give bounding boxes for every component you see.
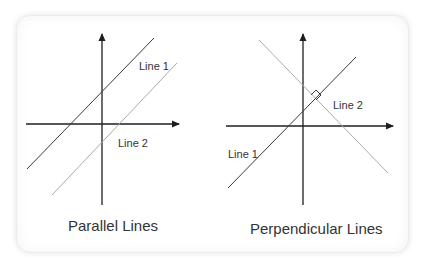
- line-2: [52, 63, 177, 195]
- line-2: [259, 40, 388, 173]
- perpendicular-lines-panel: Line 2 Line 1: [226, 34, 393, 205]
- line-1-label: Line 1: [228, 148, 258, 160]
- perpendicular-lines-title: Perpendicular Lines: [250, 220, 383, 237]
- line-1: [27, 38, 154, 169]
- parallel-lines-title: Parallel Lines: [68, 217, 158, 234]
- line-2-label: Line 2: [333, 99, 363, 111]
- line-1-label: Line 1: [139, 60, 169, 72]
- parallel-lines-panel: Line 1 Line 2: [26, 34, 179, 205]
- line-1: [228, 57, 356, 188]
- line-2-label: Line 2: [118, 137, 148, 149]
